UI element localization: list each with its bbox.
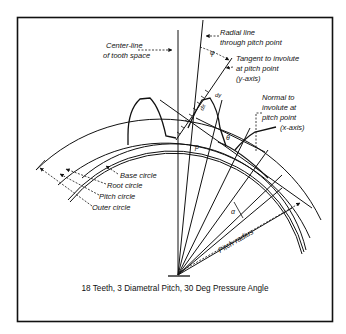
alpha-dimension [234,202,243,218]
radial-line-through-pitch-point [178,20,203,275]
label-outer-circle: Outer circle [92,203,130,212]
pitch-circle [58,143,310,238]
radial-line [178,175,282,275]
label-tangent-3: (y-axis) [236,74,261,83]
label-radial-line-2: through pitch point [220,38,283,47]
label-pitch-radius: Pitch radius [217,227,256,255]
symbol-dy: dy [215,92,222,98]
tangent-leader [226,67,233,68]
label-pitch-circle: Pitch circle [99,192,135,201]
label-radial-line: Radial line [220,28,255,37]
label-normal-4: (x-axis) [280,123,305,132]
label-tangent-2: at pitch point [236,64,279,73]
base-circle [68,151,304,252]
radial-line [178,100,222,275]
label-normal: Normal to [262,93,295,102]
label-tangent: Tangent to involute [236,54,299,63]
gear-involute-diagram: Center-line of tooth space Radial line t… [0,0,346,334]
radial-line [178,188,282,275]
label-root-circle: Root circle [107,181,142,190]
symbol-rho: ρ [194,143,199,151]
symbol-alpha: α [231,208,236,215]
symbol-phi: φ [210,49,215,57]
symbol-theta: θ [226,134,230,141]
label-center-line: Center-line [106,41,143,50]
normal-line-segment [196,118,265,152]
label-normal-2: involute at [262,103,297,112]
figure-caption: 18 Teeth, 3 Diametral Pitch, 30 Deg Pres… [82,284,269,293]
label-normal-3: pitch point [261,113,297,122]
radial-line [178,150,268,275]
label-base-circle: Base circle [120,171,157,180]
left-tooth-profile [128,98,176,145]
label-center-line-2: of tooth space [103,51,150,60]
